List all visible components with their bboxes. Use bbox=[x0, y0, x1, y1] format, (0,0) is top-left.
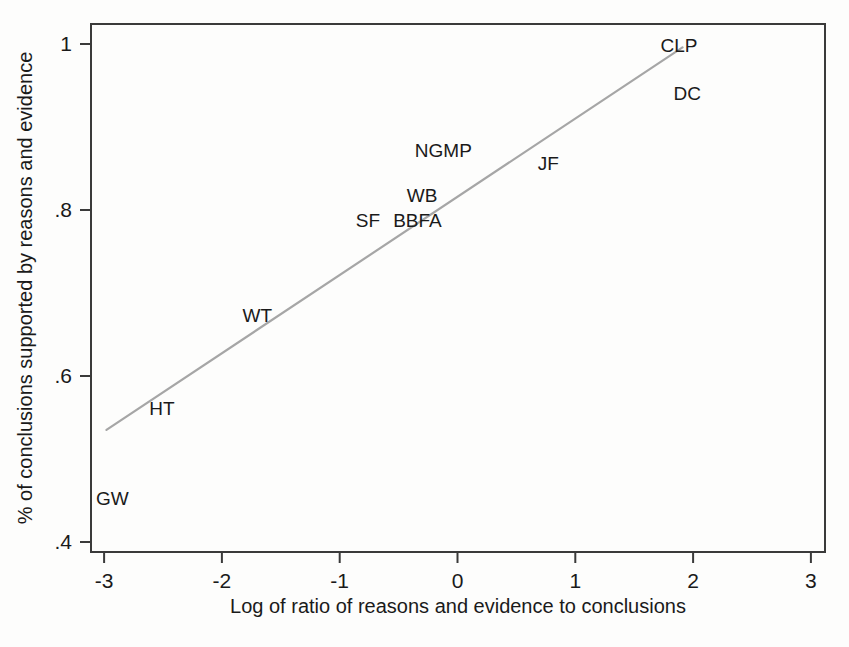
y-axis-title: % of conclusions supported by reasons an… bbox=[14, 52, 36, 525]
regression-line bbox=[106, 47, 682, 430]
y-tick-label-0: .4 bbox=[54, 530, 72, 553]
y-axis-tick-labels: .4.6.81 bbox=[54, 32, 72, 553]
x-axis-ticks bbox=[104, 552, 811, 563]
y-axis-ticks bbox=[80, 44, 91, 542]
y-tick-label-1: .6 bbox=[54, 364, 72, 387]
x-tick-label-4: 1 bbox=[569, 569, 581, 592]
point-label-jf: JF bbox=[538, 153, 559, 174]
point-label-wt: WT bbox=[242, 305, 272, 326]
data-point-labels: GWHTWTSFBBFAWBNGMPJFCLPDC bbox=[96, 35, 701, 508]
x-tick-label-3: 0 bbox=[452, 569, 464, 592]
scatter-plot-figure: -3-2-10123 .4.6.81 GWHTWTSFBBFAWBNGMPJFC… bbox=[0, 0, 849, 647]
plot-canvas: -3-2-10123 .4.6.81 GWHTWTSFBBFAWBNGMPJFC… bbox=[0, 0, 849, 647]
x-tick-label-1: -2 bbox=[213, 569, 232, 592]
plot-frame bbox=[91, 24, 825, 552]
point-label-clp: CLP bbox=[660, 35, 697, 56]
point-label-bbfa: BBFA bbox=[393, 210, 442, 231]
point-label-ngmp: NGMP bbox=[415, 140, 472, 161]
x-tick-label-5: 2 bbox=[687, 569, 699, 592]
point-label-wb: WB bbox=[407, 185, 438, 206]
point-label-sf: SF bbox=[356, 210, 380, 231]
fit-line-group bbox=[106, 47, 682, 430]
x-tick-label-2: -1 bbox=[330, 569, 349, 592]
x-tick-label-0: -3 bbox=[95, 569, 114, 592]
y-tick-label-2: .8 bbox=[54, 198, 72, 221]
x-tick-label-6: 3 bbox=[805, 569, 817, 592]
x-axis-title: Log of ratio of reasons and evidence to … bbox=[230, 595, 686, 617]
point-label-dc: DC bbox=[673, 83, 700, 104]
point-label-ht: HT bbox=[149, 398, 175, 419]
x-axis-tick-labels: -3-2-10123 bbox=[95, 569, 817, 592]
point-label-gw: GW bbox=[96, 488, 129, 509]
y-tick-label-3: 1 bbox=[60, 32, 72, 55]
